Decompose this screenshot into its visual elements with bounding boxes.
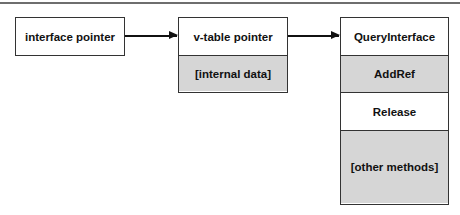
arrow-to-vtable-pointer [125, 35, 177, 37]
vtable-pointer-label: v-table pointer [179, 18, 287, 56]
arrow-to-vtable [288, 35, 339, 37]
other-methods-cell: [other methods] [341, 131, 448, 203]
interface-pointer-label: interface pointer [16, 18, 124, 55]
top-rule [0, 2, 460, 4]
addref-cell: AddRef [341, 56, 448, 93]
vtable-pointer-box: v-table pointer [internal data] [178, 17, 288, 93]
release-cell: Release [341, 93, 448, 131]
internal-data-cell: [internal data] [179, 56, 287, 91]
vtable-box: QueryInterface AddRef Release [other met… [340, 17, 449, 205]
interface-pointer-box: interface pointer [15, 17, 125, 56]
queryinterface-cell: QueryInterface [341, 18, 448, 56]
